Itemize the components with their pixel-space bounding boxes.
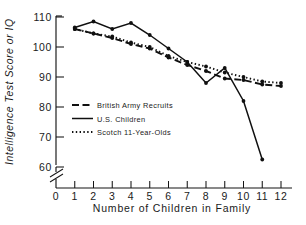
- x-tick-label: 4: [128, 190, 134, 202]
- x-tick-label: 6: [165, 190, 171, 202]
- data-point-marker: [167, 47, 171, 51]
- legend-label: British Army Recruits: [97, 101, 173, 110]
- data-point-marker: [242, 75, 246, 79]
- series-line: [75, 22, 263, 160]
- data-point-marker: [260, 158, 264, 162]
- chart-figure: Intelligence Test Score or IQ 110 100 90…: [0, 0, 306, 225]
- legend-label: U.S. Children: [97, 115, 146, 124]
- legend-label: Scotch 11-Year-Olds: [97, 128, 171, 137]
- y-axis-title: Intelligence Test Score or IQ: [3, 18, 15, 165]
- data-point-marker: [92, 20, 96, 24]
- y-tick-label: 100: [33, 41, 52, 53]
- chart-series-layer: [73, 20, 283, 162]
- data-point-marker: [204, 65, 208, 69]
- x-axis-ticks: [75, 181, 281, 188]
- data-point-marker: [110, 27, 114, 31]
- x-tick-label: 10: [237, 190, 250, 202]
- data-point-marker: [223, 66, 227, 70]
- y-axis-tick-labels: 110 100 90 80 70 60: [33, 11, 52, 173]
- x-tick-label: 7: [184, 190, 190, 202]
- data-point-marker: [148, 33, 152, 37]
- data-point-marker: [223, 71, 227, 75]
- x-axis-title: Number of Children in Family: [93, 202, 251, 214]
- data-point-marker: [73, 27, 77, 31]
- y-tick-label: 80: [39, 101, 52, 113]
- series-solid: [73, 20, 264, 162]
- x-tick-label: 9: [222, 190, 228, 202]
- x-tick-label: 11: [256, 190, 268, 202]
- data-point-marker: [110, 35, 114, 39]
- y-tick-label: 60: [39, 161, 52, 173]
- x-tick-label: 0: [53, 190, 59, 202]
- series-dashed: [73, 27, 283, 88]
- data-point-marker: [242, 99, 246, 103]
- data-point-marker: [167, 54, 171, 58]
- x-axis-tick-labels: 0123456789101112: [53, 190, 288, 202]
- data-point-marker: [260, 80, 264, 84]
- y-tick-label: 70: [39, 131, 52, 143]
- y-axis-ticks: [56, 17, 64, 167]
- x-tick-label: 2: [90, 190, 96, 202]
- data-point-marker: [92, 32, 96, 36]
- y-tick-label: 110: [33, 11, 52, 23]
- data-point-marker: [148, 45, 152, 49]
- data-point-marker: [204, 69, 208, 73]
- x-tick-label: 3: [109, 190, 115, 202]
- chart-legend: British Army RecruitsU.S. ChildrenScotch…: [72, 101, 173, 137]
- x-tick-label: 5: [147, 190, 153, 202]
- x-tick-label: 1: [72, 190, 78, 202]
- data-point-marker: [223, 77, 227, 81]
- series-line: [75, 29, 281, 86]
- chart-canvas: Intelligence Test Score or IQ 110 100 90…: [0, 0, 306, 225]
- data-point-marker: [279, 81, 283, 85]
- data-point-marker: [185, 60, 189, 64]
- x-tick-label: 8: [203, 190, 209, 202]
- data-point-marker: [129, 21, 133, 25]
- y-tick-label: 90: [39, 71, 52, 83]
- x-tick-label: 12: [275, 190, 288, 202]
- data-point-marker: [129, 41, 133, 45]
- data-point-marker: [204, 81, 208, 85]
